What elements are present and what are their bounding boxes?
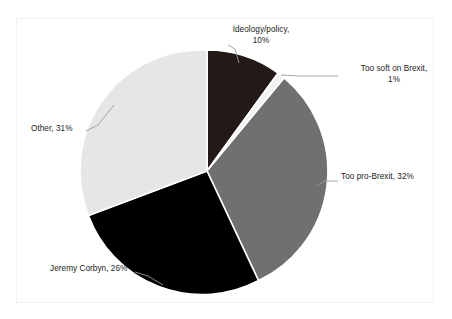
pie-slices	[80, 50, 328, 295]
pie-label-too-soft-on-brexit: Too soft on Brexit, 1%	[341, 64, 447, 85]
pie-label-ideology-policy-line2: 10%	[206, 36, 316, 47]
pie-label-jeremy-corbyn: Jeremy Corbyn, 26%	[50, 264, 127, 275]
pie-label-too-soft-on-brexit-line2: 1%	[341, 75, 447, 86]
pie-label-too-soft-on-brexit-line1: Too soft on Brexit,	[361, 64, 427, 73]
pie-label-other: Other, 31%	[31, 124, 72, 135]
pie-label-ideology-policy: Ideology/policy, 10%	[206, 25, 316, 46]
leader-line-too-soft-on-brexit	[281, 75, 338, 76]
chart-page: Ideology/policy, 10% Too soft on Brexit,…	[0, 0, 452, 319]
pie-label-too-pro-brexit: Too pro-Brexit, 32%	[341, 172, 414, 183]
pie-label-ideology-policy-line1: Ideology/policy,	[233, 25, 290, 34]
